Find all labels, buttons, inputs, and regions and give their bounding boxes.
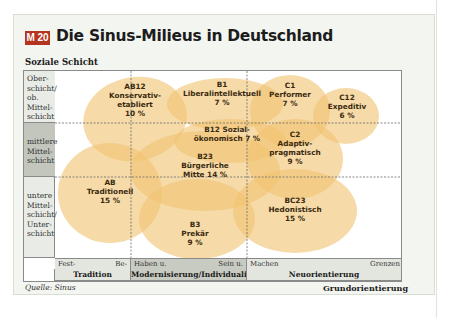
milieu-label-line: Adaptiv-	[278, 139, 313, 148]
milieu-label-line: Konservativ-	[109, 91, 161, 100]
milieu-label-line: B23	[197, 152, 213, 161]
milieu-label-line: C12	[339, 93, 355, 102]
milieu-label-line: 9 %	[288, 157, 304, 166]
milieu-label-line: Bürgerliche	[181, 161, 229, 170]
row-label-text: mittlere Mittel- schicht	[27, 137, 57, 165]
milieu-label-line: B3	[190, 220, 201, 229]
milieu-label-line: Mitte 14 %	[183, 170, 228, 179]
milieu-label-line: AB12	[124, 82, 145, 91]
milieu-label-line: Liberalintellektuell	[183, 89, 261, 98]
x-axis-title: Grundorientierung	[323, 283, 408, 293]
row-label-upper: Ober- schicht/ ob. Mittel- schicht	[24, 71, 55, 123]
milieu-label-line: 9 %	[188, 238, 204, 247]
milieu-label-line: 15 %	[285, 214, 306, 223]
row-label-lower: untere Mittel- schicht/ Unter- schicht	[24, 177, 55, 258]
milieu-label-line: Performer	[269, 90, 311, 99]
milieu-label-line: ökonomisch 7 %	[194, 134, 261, 143]
milieu-grid: Ober- schicht/ ob. Mittel- schicht mittl…	[23, 70, 402, 282]
figure-title: Die Sinus-Milieus in Deutschland	[56, 27, 333, 45]
milieu-label-line: BC23	[284, 196, 305, 205]
band-label-tradition: Tradition	[54, 269, 130, 281]
milieu-label-line: etabliert	[117, 100, 153, 109]
row-label-middle: mittlere Mittel- schicht	[24, 123, 55, 177]
milieu-label-line: 7 %	[215, 98, 231, 107]
band-label-neuorientierung: Neuorientierung	[246, 269, 402, 281]
band-label-modernisierung: Modernisierung/Individualisierung	[130, 269, 246, 281]
milieu-label-line: 10 %	[125, 109, 146, 118]
milieu-chart: AB12Konservativ-etabliert10 %B1Liberalin…	[55, 71, 402, 258]
milieu-label-line: pragmatisch	[269, 148, 320, 157]
milieu-label-line: 7 %	[283, 99, 299, 108]
y-axis-title: Soziale Schicht	[25, 57, 98, 67]
milieu-label-line: Expeditiv	[328, 102, 367, 111]
row-label-text: Ober- schicht/ ob. Mittel- schicht	[27, 74, 57, 121]
page-edge-rule	[436, 0, 437, 318]
row-label-text: untere Mittel- schicht/ Unter- schicht	[27, 191, 57, 238]
source-note: Quelle: Sinus	[25, 283, 76, 292]
milieu-label-line: 6 %	[340, 111, 356, 120]
milieu-label-line: Hedonistisch	[268, 205, 321, 214]
milieu-label-line: 15 %	[100, 196, 121, 205]
material-badge: M 20	[25, 31, 50, 45]
milieu-label-line: AB	[104, 178, 116, 187]
milieu-label-line: B1	[217, 80, 228, 89]
milieu-label-line: C2	[290, 130, 300, 139]
milieu-label-line: Prekär	[181, 229, 209, 238]
milieu-label-line: C1	[285, 81, 295, 90]
milieu-label-line: Traditionell	[87, 187, 134, 196]
milieu-label-line: B12 Sozial-	[204, 125, 250, 134]
